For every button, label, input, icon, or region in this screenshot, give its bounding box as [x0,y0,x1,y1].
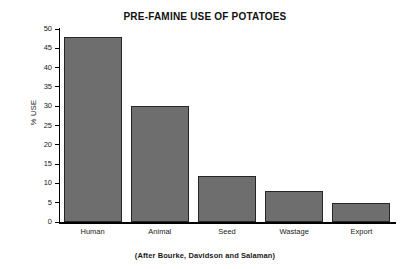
y-tick-label: 15 [44,159,52,168]
y-tick-label: 30 [44,101,52,110]
chart-title: PRE-FAMINE USE OF POTATOES [0,11,410,22]
chart-container: PRE-FAMINE USE OF POTATOES % USE 0510152… [0,0,410,269]
x-axis-line [59,222,396,224]
y-tick-label: 35 [44,82,52,91]
bar [265,191,323,222]
bar [198,176,256,222]
y-tick-label: 20 [44,140,52,149]
y-tick-label: 45 [44,43,52,52]
x-category-label: Export [321,227,401,236]
chart-caption: (After Bourke, Davidson and Salaman) [0,251,410,260]
y-tick-label: 0 [48,217,52,226]
y-axis-label: % USE [29,93,38,133]
y-tick-label: 10 [44,178,52,187]
y-tick-label: 5 [48,198,52,207]
y-tick-label: 50 [44,24,52,33]
y-tick-label: 40 [44,63,52,72]
bar [131,106,189,222]
y-tick-label: 25 [44,121,52,130]
bar [332,203,390,222]
bar [64,37,122,222]
plot-area [59,29,395,222]
